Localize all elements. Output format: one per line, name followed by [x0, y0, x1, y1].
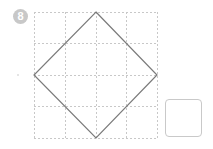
dotted-grid [34, 12, 158, 139]
answer-box[interactable] [165, 99, 202, 137]
